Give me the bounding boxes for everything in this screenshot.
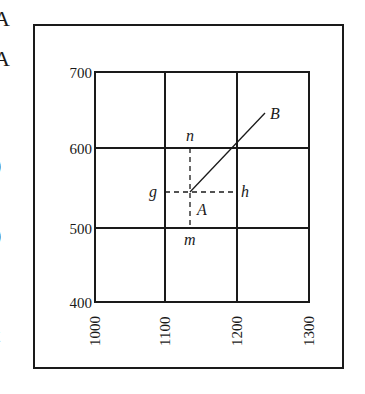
x-tick-1200: 1200: [229, 316, 245, 346]
segment-a-b: [190, 113, 265, 192]
x-tick-1300: 1300: [301, 316, 317, 346]
x-tick-1000: 1000: [87, 316, 103, 346]
y-tick-400: 400: [70, 295, 93, 311]
label-n: n: [186, 127, 194, 144]
x-tick-1100: 1100: [157, 317, 173, 346]
label-b: B: [270, 105, 280, 122]
y-tick-600: 600: [70, 141, 93, 157]
label-g: g: [149, 183, 157, 201]
y-tick-500: 500: [70, 221, 93, 237]
label-h: h: [241, 183, 249, 200]
grid-diagram: 700 600 500 400 1000 1100 1200 1300 B n …: [0, 0, 365, 394]
y-tick-700: 700: [70, 65, 93, 81]
label-a: A: [196, 201, 207, 218]
label-m: m: [184, 231, 196, 248]
